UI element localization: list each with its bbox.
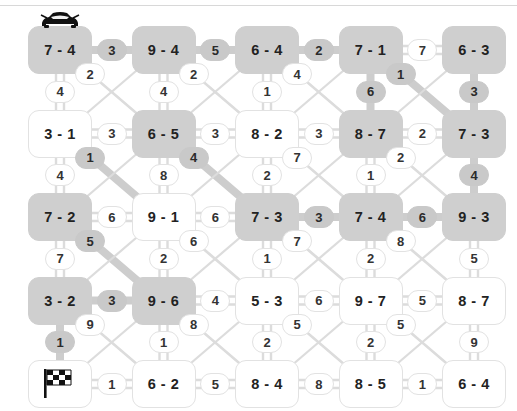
cell-label: 1: [160, 335, 167, 350]
edge-v-r3c4[interactable]: 9: [459, 331, 489, 353]
edge-h-r1c0[interactable]: 3: [97, 123, 127, 145]
edge-d-11[interactable]: 8: [386, 230, 416, 252]
edge-v-r1c0[interactable]: 4: [45, 164, 75, 186]
cell-label: 8 - 5: [355, 376, 387, 392]
node-r3c4[interactable]: 8 - 7: [442, 277, 506, 325]
edge-h-r1c2[interactable]: 3: [304, 123, 334, 145]
node-r0c4[interactable]: 6 - 3: [442, 26, 506, 74]
node-r2c4[interactable]: 9 - 3: [442, 193, 506, 241]
edge-h-r3c2[interactable]: 6: [304, 290, 334, 312]
edge-v-r0c2[interactable]: 1: [252, 81, 282, 103]
edge-h-r4c2[interactable]: 8: [304, 373, 334, 395]
edge-d-13[interactable]: 8: [179, 314, 209, 336]
cell-label: 9 - 3: [458, 209, 490, 225]
edge-v-r1c2[interactable]: 2: [252, 164, 282, 186]
edge-d-12[interactable]: 9: [75, 314, 105, 336]
edge-d-1[interactable]: 2: [179, 63, 209, 85]
cell-label: 1: [56, 335, 63, 350]
edge-h-r4c1[interactable]: 5: [200, 373, 230, 395]
edge-h-r0c0[interactable]: 3: [97, 39, 127, 61]
edge-v-r0c4[interactable]: 3: [459, 81, 489, 103]
node-r4c1[interactable]: 6 - 2: [132, 360, 196, 408]
cell-label: 2: [315, 43, 322, 58]
cell-label: 8 - 7: [355, 126, 387, 142]
edge-d-2[interactable]: 4: [282, 63, 312, 85]
edge-d-9[interactable]: 6: [179, 230, 209, 252]
node-r4c0[interactable]: [28, 360, 92, 408]
edge-d-15[interactable]: 5: [386, 314, 416, 336]
cell-label: 6: [367, 84, 374, 99]
cell-label: 4: [470, 168, 477, 183]
edge-h-r0c1[interactable]: 5: [200, 39, 230, 61]
cell-label: 1: [397, 67, 404, 82]
cell-label: 6 - 2: [148, 376, 180, 392]
edge-v-r0c1[interactable]: 4: [149, 81, 179, 103]
edge-h-r1c3[interactable]: 2: [407, 123, 437, 145]
node-r4c2[interactable]: 8 - 4: [235, 360, 299, 408]
edge-d-7[interactable]: 2: [386, 147, 416, 169]
cell-label: 6: [190, 234, 197, 249]
edge-h-r4c3[interactable]: 1: [407, 373, 437, 395]
cell-label: 7 - 1: [355, 42, 387, 58]
edge-v-r1c1[interactable]: 8: [149, 164, 179, 186]
cell-label: 3 - 2: [44, 293, 76, 309]
cell-label: 2: [419, 126, 426, 141]
cell-label: 9 - 4: [148, 42, 180, 58]
edge-v-r3c2[interactable]: 2: [252, 331, 282, 353]
cell-label: 6: [315, 293, 322, 308]
node-r1c4[interactable]: 7 - 3: [442, 110, 506, 158]
edge-h-r0c3[interactable]: 7: [407, 39, 437, 61]
cell-label: 2: [263, 168, 270, 183]
edge-h-r4c0[interactable]: 1: [97, 373, 127, 395]
edge-v-r3c0[interactable]: 1: [45, 331, 75, 353]
edge-h-r3c1[interactable]: 4: [200, 290, 230, 312]
cell-label: 4: [160, 84, 167, 99]
node-r4c3[interactable]: 8 - 5: [339, 360, 403, 408]
cell-label: 5: [212, 43, 219, 58]
edge-d-4[interactable]: 1: [75, 147, 105, 169]
cell-label: 4: [293, 67, 300, 82]
edge-h-r2c1[interactable]: 6: [200, 206, 230, 228]
puzzle-board[interactable]: 7 - 49 - 46 - 47 - 16 - 33 - 16 - 58 - 2…: [0, 0, 517, 411]
edge-v-r1c4[interactable]: 4: [459, 164, 489, 186]
edge-h-r1c1[interactable]: 3: [200, 123, 230, 145]
edge-d-10[interactable]: 7: [282, 230, 312, 252]
edge-d-14[interactable]: 5: [282, 314, 312, 336]
cell-label: 6: [108, 210, 115, 225]
cell-label: 7 - 3: [458, 126, 490, 142]
edge-v-r2c4[interactable]: 5: [459, 248, 489, 270]
cell-label: 6 - 5: [148, 126, 180, 142]
edge-v-r1c3[interactable]: 1: [356, 164, 386, 186]
edge-h-r2c3[interactable]: 6: [407, 206, 437, 228]
cell-label: 8: [315, 377, 322, 392]
edge-h-r2c2[interactable]: 3: [304, 206, 334, 228]
edge-h-r0c2[interactable]: 2: [304, 39, 334, 61]
edge-v-r2c2[interactable]: 1: [252, 248, 282, 270]
edge-d-6[interactable]: 7: [282, 147, 312, 169]
cell-label: 7: [56, 251, 63, 266]
edge-h-r3c0[interactable]: 3: [97, 290, 127, 312]
edge-v-r2c1[interactable]: 2: [149, 248, 179, 270]
edge-v-r0c3[interactable]: 6: [356, 81, 386, 103]
cell-label: 1: [86, 150, 93, 165]
edge-d-8[interactable]: 5: [75, 230, 105, 252]
cell-label: 3: [315, 126, 322, 141]
edge-d-3[interactable]: 1: [386, 63, 416, 85]
edge-h-r2c0[interactable]: 6: [97, 206, 127, 228]
edge-d-5[interactable]: 4: [179, 147, 209, 169]
cell-label: 8: [190, 317, 197, 332]
edge-d-0[interactable]: 2: [75, 63, 105, 85]
cell-label: 6 - 4: [251, 42, 283, 58]
edge-v-r2c3[interactable]: 2: [356, 248, 386, 270]
edge-v-r2c0[interactable]: 7: [45, 248, 75, 270]
edge-h-r3c3[interactable]: 5: [407, 290, 437, 312]
node-r4c4[interactable]: 6 - 4: [442, 360, 506, 408]
cell-label: 7: [293, 150, 300, 165]
edge-v-r3c1[interactable]: 1: [149, 331, 179, 353]
cell-label: 8 - 7: [458, 293, 490, 309]
edge-v-r0c0[interactable]: 4: [45, 81, 75, 103]
edge-v-r3c3[interactable]: 2: [356, 331, 386, 353]
cell-label: 3: [315, 210, 322, 225]
cell-label: 8 - 4: [251, 376, 283, 392]
cell-label: 1: [263, 251, 270, 266]
